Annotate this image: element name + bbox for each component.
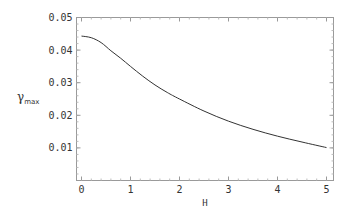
x-tick-label: 5 (323, 184, 329, 195)
y-axis-label-subscript: max (24, 98, 39, 106)
x-tick-label: 1 (127, 184, 133, 195)
y-tick-label: 0.02 (48, 110, 72, 121)
x-tick-label: 4 (274, 184, 280, 195)
x-tick-label: 3 (225, 184, 231, 195)
x-tick-label: 2 (176, 184, 182, 195)
x-tick-label: 0 (78, 184, 84, 195)
data-curve (82, 36, 327, 147)
line-chart: 0.010.020.030.040.05 012345 H γmax (0, 0, 351, 217)
y-tick-label: 0.04 (48, 45, 72, 56)
y-axis-label: γmax (17, 90, 39, 106)
x-axis-label: H (202, 198, 207, 208)
chart-frame (77, 18, 334, 181)
frame-ticks (77, 18, 334, 181)
y-axis-ticks: 0.010.020.030.040.05 (48, 12, 333, 153)
y-tick-label: 0.01 (48, 142, 72, 153)
x-axis-ticks: 012345 (78, 18, 329, 195)
y-tick-label: 0.03 (48, 77, 72, 88)
y-axis-label-symbol: γ (17, 90, 24, 104)
y-tick-label: 0.05 (48, 12, 72, 23)
